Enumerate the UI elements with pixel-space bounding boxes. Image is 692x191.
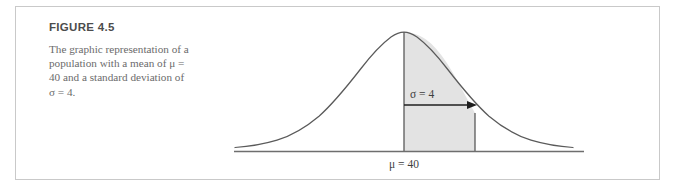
figure-title: FIGURE 4.5 (49, 21, 209, 33)
mean-label: μ = 40 (389, 158, 419, 171)
figure-frame: FIGURE 4.5 The graphic representation of… (15, 6, 660, 180)
sigma-label: σ = 4 (410, 88, 434, 100)
figure-caption-text: The graphic representation of a populati… (49, 42, 191, 99)
normal-distribution-chart: σ = 4 μ = 40 (211, 15, 661, 180)
figure-page: FIGURE 4.5 The graphic representation of… (0, 0, 692, 191)
distribution-svg: σ = 4 μ = 40 (211, 15, 661, 180)
caption-block: FIGURE 4.5 The graphic representation of… (49, 21, 209, 99)
